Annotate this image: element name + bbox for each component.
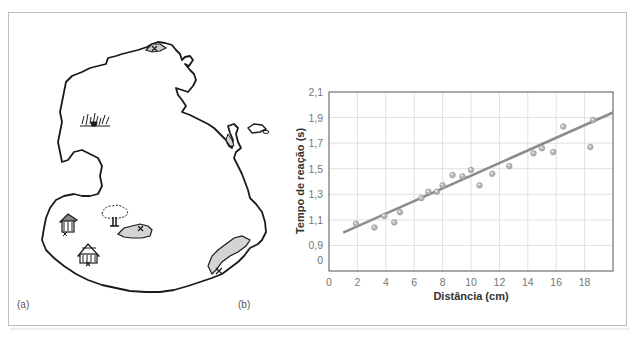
data-point-highlight [552, 150, 554, 152]
data-point [460, 174, 466, 180]
x-tick-label: 6 [411, 276, 417, 288]
y-tick-label: 2,1 [308, 86, 323, 98]
y-axis-ticks: 00,91,11,31,51,71,92,1 [308, 86, 323, 266]
data-point [539, 145, 545, 151]
scatter-chart: 00,91,11,31,51,71,92,1 024681012141618 D… [0, 0, 637, 341]
data-point [477, 183, 483, 189]
data-point [531, 151, 537, 157]
data-point-highlight [427, 190, 429, 192]
data-point [590, 117, 596, 123]
y-tick-label: 0 [317, 254, 323, 266]
x-axis-ticks: 024681012141618 [326, 276, 591, 288]
x-tick-label: 16 [550, 276, 562, 288]
data-point [397, 209, 403, 215]
data-point-highlight [354, 222, 356, 224]
data-point-highlight [435, 190, 437, 192]
data-point [490, 171, 496, 177]
x-tick-label: 10 [465, 276, 477, 288]
data-point [419, 195, 425, 201]
data-point [507, 163, 513, 169]
x-tick-label: 18 [579, 276, 591, 288]
y-tick-label: 1,7 [308, 137, 323, 149]
data-point-highlight [588, 145, 590, 147]
data-point [382, 213, 388, 219]
chart-grid [329, 92, 613, 271]
y-tick-label: 0,9 [308, 239, 323, 251]
data-point-highlight [532, 152, 534, 154]
data-point [587, 144, 593, 150]
data-point-highlight [562, 125, 564, 127]
data-point-highlight [540, 146, 542, 148]
x-tick-label: 0 [326, 276, 332, 288]
data-point-highlight [420, 196, 422, 198]
data-point [561, 124, 567, 130]
x-tick-label: 8 [440, 276, 446, 288]
data-point [392, 220, 398, 226]
data-point [372, 225, 378, 231]
data-point [440, 183, 446, 189]
y-tick-label: 1,9 [308, 112, 323, 124]
x-tick-label: 14 [522, 276, 534, 288]
x-tick-label: 4 [383, 276, 389, 288]
data-point-highlight [478, 184, 480, 186]
data-point [468, 167, 474, 173]
data-point [353, 221, 359, 227]
data-point-highlight [441, 184, 443, 186]
y-tick-label: 1,5 [308, 163, 323, 175]
data-point-highlight [393, 221, 395, 223]
y-axis-title: Tempo de reação (s) [294, 128, 306, 234]
data-point-highlight [591, 118, 593, 120]
data-point-highlight [469, 168, 471, 170]
y-tick-label: 1,1 [308, 214, 323, 226]
data-point-highlight [508, 164, 510, 166]
data-point-highlight [373, 226, 375, 228]
x-axis-title: Distância (cm) [433, 290, 509, 302]
data-point [426, 189, 432, 195]
data-point-highlight [383, 214, 385, 216]
data-point [434, 189, 440, 195]
data-point-highlight [398, 210, 400, 212]
data-point-highlight [451, 173, 453, 175]
data-point-highlight [461, 175, 463, 177]
data-point [551, 149, 557, 155]
x-tick-label: 12 [494, 276, 506, 288]
x-tick-label: 2 [354, 276, 360, 288]
data-point [450, 172, 456, 178]
data-point-highlight [491, 172, 493, 174]
y-tick-label: 1,3 [308, 188, 323, 200]
